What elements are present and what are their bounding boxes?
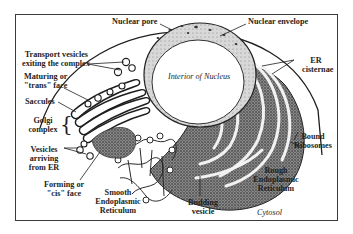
golgi-brace-icon: { [60,114,73,134]
label-vesicles-arriving: Vesicles arriving from ER [24,145,64,172]
label-er-cisternae: ER cisternae [302,56,330,74]
label-nuclear-pore: Nuclear pore [112,17,157,26]
label-smooth-er: Smooth Endoplasmic Reticulum [92,188,144,215]
label-transport-vesicles: Transport vesicles exiting the complex [22,50,88,68]
nucleus-interior [152,40,244,124]
label-golgi-complex: Golgi complex [26,116,60,134]
label-interior-of-nucleus: Interior of Nucleus [168,72,230,81]
label-saccules: Saccules [25,97,55,106]
label-forming-face: Forming or "cis" face [42,180,86,198]
label-maturing-face: Maturing or "trans" face [24,72,67,90]
label-rough-er: Rough Endoplasmic Reticulum [250,166,302,193]
label-bound-ribosomes: Bound Ribosomes [290,132,336,150]
label-nuclear-envelope: Nuclear envelope [248,17,308,26]
label-budding-vesicle: Budding vesicle [186,198,220,216]
label-cytosol: Cytosol [257,208,282,217]
